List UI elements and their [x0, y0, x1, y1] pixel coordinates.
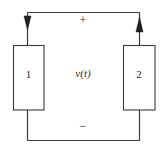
element-box-1-label: 1 [13, 69, 44, 80]
element-box-2-label: 2 [123, 69, 155, 80]
circuit-diagram-figure: 1 2 v(t) + − [0, 0, 165, 151]
polarity-minus-label: − [54, 120, 112, 132]
right-lead-arrowhead-up-icon [136, 17, 143, 32]
polarity-plus-label: + [54, 14, 112, 26]
voltage-label: v(t) [54, 68, 112, 79]
left-lead-arrowhead-down-icon [24, 16, 31, 30]
